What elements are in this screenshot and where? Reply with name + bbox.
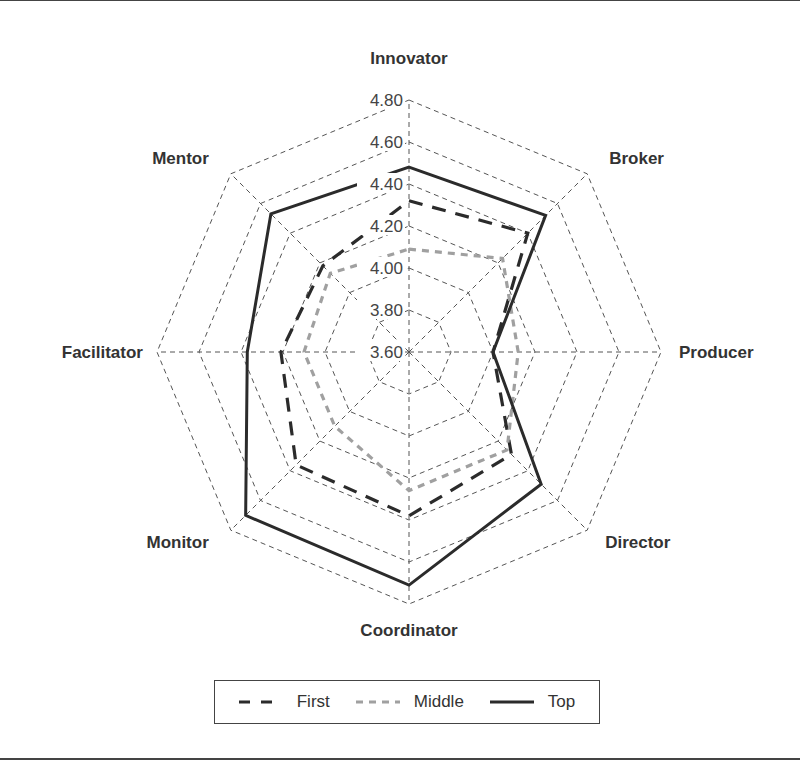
legend-label-middle: Middle [414,692,464,712]
axis-label-broker: Broker [609,149,664,168]
radial-tick-label: 4.80 [370,91,403,110]
radial-tick-label: 4.40 [370,175,403,194]
axis-label-innovator: Innovator [370,49,448,68]
axis-labels: InnovatorBrokerProducerDirectorCoordinat… [62,49,754,640]
radial-tick-label: 4.60 [370,133,403,152]
legend-label-top: Top [548,692,575,712]
legend-swatch-middle [356,699,400,705]
legend: First Middle Top [214,680,600,724]
axis-label-facilitator: Facilitator [62,343,144,362]
axis-label-producer: Producer [679,343,754,362]
radial-tick-label: 4.00 [370,259,403,278]
radar-chart: 3.603.804.004.204.404.604.80 InnovatorBr… [0,0,800,680]
legend-label-first: First [297,692,330,712]
legend-swatch-top [490,699,534,705]
legend-item-middle: Middle [356,692,464,712]
radial-tick-label: 3.80 [370,301,403,320]
axis-label-coordinator: Coordinator [360,621,458,640]
grid-spoke [409,174,587,352]
axis-label-director: Director [605,533,671,552]
axis-label-mentor: Mentor [152,149,209,168]
grid-spoke [231,352,409,530]
legend-item-top: Top [490,692,575,712]
bottom-border [0,758,800,760]
radial-tick-label: 4.20 [370,217,403,236]
radar-grid [157,100,661,604]
radial-tick-label: 3.60 [370,343,403,362]
radial-tick-labels: 3.603.804.004.204.404.604.80 [357,89,405,362]
legend-item-first: First [239,692,330,712]
legend-swatch-first [239,699,283,705]
axis-label-monitor: Monitor [146,533,209,552]
